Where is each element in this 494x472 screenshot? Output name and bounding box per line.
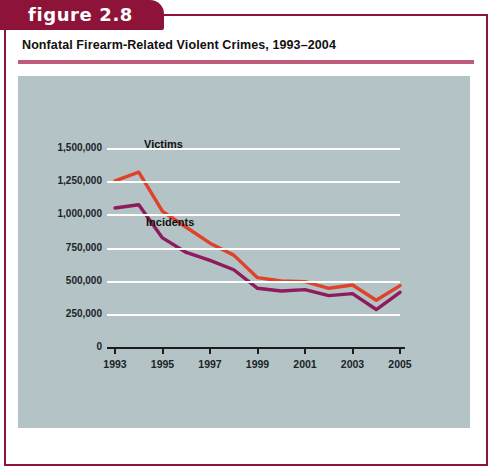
- gridline: [115, 148, 400, 150]
- series-label-incidents: Incidents: [146, 216, 194, 228]
- x-axis-label: 2003: [331, 358, 375, 370]
- plot-area: Victims Incidents 0250,000500,000750,000…: [18, 76, 470, 428]
- x-axis-line: [115, 347, 405, 349]
- figure-number-label: figure 2.8: [28, 4, 133, 25]
- y-axis-label: 1,500,000: [58, 143, 103, 153]
- gridline: [115, 214, 400, 216]
- x-axis-label: 1999: [236, 358, 280, 370]
- x-axis-tick: [304, 347, 306, 354]
- figure-container: figure 2.8 Nonfatal Firearm-Related Viol…: [0, 0, 494, 472]
- title-divider: [18, 60, 474, 64]
- y-axis-label: 1,250,000: [58, 176, 103, 186]
- y-axis-tick: [107, 148, 115, 150]
- y-axis-label: 500,000: [66, 276, 102, 286]
- gridline: [115, 181, 400, 183]
- y-axis-label: 1,000,000: [58, 209, 103, 219]
- x-axis-tick: [162, 347, 164, 354]
- x-axis-label: 1995: [141, 358, 185, 370]
- y-axis-tick: [107, 181, 115, 183]
- y-axis-label: 0: [96, 342, 102, 352]
- x-axis-label: 2001: [283, 358, 327, 370]
- y-axis-tick: [107, 314, 115, 316]
- chart-plot-panel: Victims Incidents 0250,000500,000750,000…: [18, 76, 470, 428]
- y-axis-label: 250,000: [66, 309, 102, 319]
- x-axis-label: 2005: [378, 358, 422, 370]
- x-axis-tick: [399, 347, 401, 354]
- x-axis-label: 1997: [188, 358, 232, 370]
- gridline: [115, 314, 400, 316]
- y-axis-tick: [107, 281, 115, 283]
- gridline: [115, 248, 400, 250]
- y-axis-label: 750,000: [66, 243, 102, 253]
- x-axis-label: 1993: [93, 358, 137, 370]
- y-axis-tick: [107, 214, 115, 216]
- x-axis-tick: [209, 347, 211, 354]
- figure-number-tab: figure 2.8: [0, 0, 164, 30]
- gridline: [115, 281, 400, 283]
- chart-title: Nonfatal Firearm-Related Violent Crimes,…: [22, 38, 336, 52]
- x-axis-tick: [257, 347, 259, 354]
- x-axis-tick: [352, 347, 354, 354]
- x-axis-tick: [114, 347, 116, 354]
- y-axis-tick: [107, 248, 115, 250]
